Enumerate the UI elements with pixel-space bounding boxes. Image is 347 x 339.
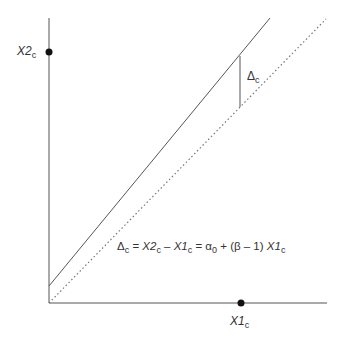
y-axis-label: X2c xyxy=(17,44,36,60)
equation: Δc = X2c – X1c = α0 + (β – 1) X1c xyxy=(117,240,285,255)
x-axis-label: X1c xyxy=(230,314,249,330)
diagram-canvas xyxy=(0,0,347,339)
identity-line xyxy=(49,19,326,303)
x-axis-point xyxy=(238,300,245,307)
y-axis-point xyxy=(46,49,53,56)
delta-label: Δc xyxy=(247,69,260,85)
